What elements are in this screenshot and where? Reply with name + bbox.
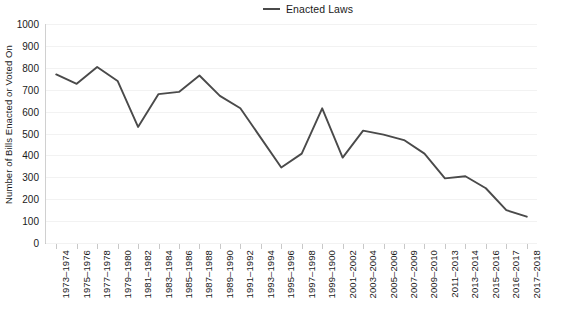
legend-item-enacted-laws: Enacted Laws <box>263 3 353 15</box>
x-axis-tick-label: 1997–1998 <box>306 250 317 298</box>
x-axis-tick-label: 1979–1980 <box>122 250 133 298</box>
series-line <box>56 67 527 217</box>
x-axis-tick <box>261 244 262 249</box>
x-axis-tick-label: 1983–1984 <box>163 250 174 298</box>
x-axis-tick <box>138 244 139 249</box>
line-chart: Enacted Laws Number of Bills Enacted or … <box>0 0 564 327</box>
x-axis-tick <box>424 244 425 249</box>
x-axis-tick-label: 2015–2016 <box>490 250 501 298</box>
x-axis-tick <box>281 244 282 249</box>
y-axis-tick-label: 600 <box>22 106 39 117</box>
x-axis-tick-label: 1977–1978 <box>101 250 112 298</box>
x-axis-tick-label: 1985–1986 <box>183 250 194 298</box>
x-axis-ticks <box>46 244 537 249</box>
y-axis-tick-label: 800 <box>22 62 39 73</box>
x-axis-tick <box>240 244 241 249</box>
plot-area <box>46 24 537 243</box>
x-axis-tick <box>445 244 446 249</box>
x-axis-tick-label: 1995–1996 <box>285 250 296 298</box>
x-axis-tick-label: 1973–1974 <box>60 250 71 298</box>
x-axis-tick-label: 1981–1982 <box>142 250 153 298</box>
legend-label: Enacted Laws <box>286 3 353 15</box>
x-axis-tick-label: 1991–1992 <box>244 250 255 298</box>
x-axis-tick <box>343 244 344 249</box>
x-axis-tick <box>322 244 323 249</box>
x-axis-tick <box>199 244 200 249</box>
chart-legend: Enacted Laws <box>0 0 564 18</box>
x-axis-tick <box>159 244 160 249</box>
x-axis-tick <box>220 244 221 249</box>
x-axis-tick-label: 2013–2014 <box>469 250 480 298</box>
x-axis-tick <box>506 244 507 249</box>
x-axis-tick-label: 2017–2018 <box>531 250 542 298</box>
x-axis-tick-label: 2005–2006 <box>388 250 399 298</box>
x-axis-tick-label: 2007–2009 <box>408 250 419 298</box>
x-axis-tick-label: 2011–2013 <box>449 250 460 298</box>
y-axis-tick-label: 400 <box>22 150 39 161</box>
y-axis-tick-label: 500 <box>22 128 39 139</box>
x-axis-tick <box>363 244 364 249</box>
y-axis-tick-label: 200 <box>22 194 39 205</box>
x-axis-tick <box>384 244 385 249</box>
x-axis-tick <box>302 244 303 249</box>
x-axis-tick-label: 2016–2017 <box>510 250 521 298</box>
x-axis-tick <box>465 244 466 249</box>
x-axis-tick <box>56 244 57 249</box>
x-axis-tick-label: 2003–2004 <box>367 250 378 298</box>
x-axis-tick-label: 1987–1988 <box>203 250 214 298</box>
y-axis-tick-label: 1000 <box>17 19 39 30</box>
x-axis-tick <box>486 244 487 249</box>
x-axis-tick <box>527 244 528 249</box>
x-axis-tick-label: 1993–1994 <box>265 250 276 298</box>
x-axis-tick <box>97 244 98 249</box>
y-axis-tick-label: 900 <box>22 40 39 51</box>
y-axis-tick-label: 0 <box>33 238 39 249</box>
x-axis-tick <box>179 244 180 249</box>
y-axis-tick-label: 700 <box>22 84 39 95</box>
x-axis-tick <box>77 244 78 249</box>
x-axis-tick <box>404 244 405 249</box>
y-axis-tick-label: 300 <box>22 172 39 183</box>
x-axis-tick-label: 1989–1990 <box>224 250 235 298</box>
series-enacted-laws <box>46 24 537 243</box>
y-axis-tick-labels: 01002003004005006007008009001000 <box>0 0 44 327</box>
x-axis-tick-label: 1999–1900 <box>326 250 337 298</box>
x-axis-tick <box>118 244 119 249</box>
x-axis-tick-labels: 1973–19741975–19761977–19781979–19801981… <box>46 250 537 327</box>
x-axis-tick-label: 2001–2002 <box>347 250 358 298</box>
line-swatch-icon <box>263 8 280 10</box>
x-axis-tick-label: 1975–1976 <box>81 250 92 298</box>
y-axis-tick-label: 100 <box>22 216 39 227</box>
x-axis-tick-label: 2009–2010 <box>428 250 439 298</box>
